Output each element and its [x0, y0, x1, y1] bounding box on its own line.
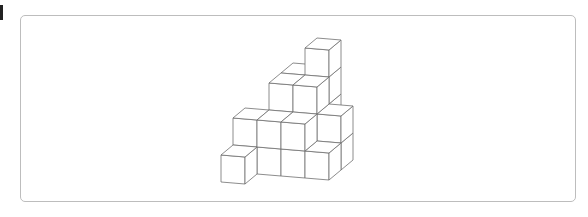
cube-stack-figure: [0, 0, 588, 217]
cube-front-face: [233, 118, 257, 147]
cube-front-face: [305, 151, 329, 180]
cube-front-face: [305, 48, 329, 77]
cube-front-face: [281, 149, 305, 178]
cube-front-face: [293, 85, 317, 114]
cube-front-face: [257, 120, 281, 149]
cube-front-face: [257, 147, 281, 176]
cube-group: [221, 38, 353, 184]
cube-front-face: [317, 114, 341, 143]
cube-front-face: [269, 83, 293, 112]
cube-front-face: [281, 122, 305, 151]
cube-front-face: [221, 155, 245, 184]
